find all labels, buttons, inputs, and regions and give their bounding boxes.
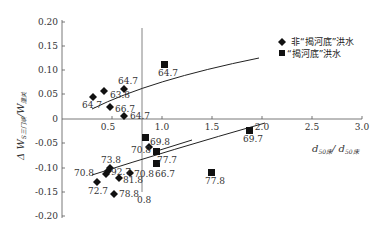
svg-text:69.8: 69.8 [150, 137, 170, 147]
svg-text:0.20: 0.20 [38, 17, 58, 27]
svg-text:64.7: 64.7 [118, 76, 138, 86]
svg-text:1.0: 1.0 [155, 122, 170, 132]
x-tick-labels: 0.5 1.0 1.5 2.0 2.5 3.0 [101, 122, 370, 132]
svg-text:77.8: 77.8 [205, 176, 225, 186]
svg-text:-0.15: -0.15 [35, 187, 58, 197]
square-marker [246, 127, 253, 134]
diamond-marker [110, 190, 118, 198]
y-axis-title: Δ WS三门峡/W潼关 [15, 91, 27, 161]
svg-text:64.7: 64.7 [158, 68, 178, 78]
square-marker [142, 134, 149, 141]
svg-text:63.8: 63.8 [110, 90, 130, 100]
svg-text:77.7: 77.7 [157, 155, 177, 165]
svg-text:70.8: 70.8 [74, 168, 94, 178]
diamond-marker [93, 178, 101, 186]
legend: 非“揭河底”洪水 “揭河底”洪水 [278, 36, 354, 59]
svg-text:70.8: 70.8 [131, 145, 151, 155]
y-tick-labels: 0.20 0.15 0.10 0.05 0 -0.05 -0.10 -0.15 … [35, 17, 58, 221]
svg-text:72.7: 72.7 [88, 186, 108, 196]
x-axis-title: d50床/ d50床 [312, 143, 360, 155]
legend-item-non-jiehedi: 非“揭河底”洪水 [291, 36, 354, 47]
svg-text:-0.20: -0.20 [35, 211, 58, 221]
svg-text:-0.05: -0.05 [35, 138, 58, 148]
svg-text:70.8: 70.8 [134, 169, 154, 179]
x-axis [62, 116, 362, 119]
svg-text:69.7: 69.7 [243, 134, 263, 144]
square-marker [153, 148, 160, 155]
svg-text:0: 0 [52, 114, 58, 124]
reference-line-label: 0.8 [137, 195, 152, 205]
square-marker [161, 61, 168, 68]
diamond-marker [100, 87, 108, 95]
svg-text:0.10: 0.10 [38, 65, 58, 75]
svg-text:66.7: 66.7 [155, 169, 175, 179]
svg-text:2.5: 2.5 [305, 122, 320, 132]
square-marker [208, 169, 215, 176]
svg-text:64.7: 64.7 [130, 111, 150, 121]
svg-text:-0.10: -0.10 [35, 163, 58, 173]
legend-diamond-icon [278, 38, 286, 46]
legend-square-icon [279, 50, 285, 56]
point-labels: 64.7 63.8 64.7 66.7 64.7 70.8 73.8 70.8 … [74, 68, 263, 205]
svg-text:0.15: 0.15 [38, 41, 58, 51]
svg-text:73.8: 73.8 [101, 155, 121, 165]
svg-text:64.7: 64.7 [82, 100, 102, 110]
svg-text:0.5: 0.5 [101, 122, 116, 132]
diamond-marker [106, 103, 114, 111]
scatter-chart: 0.20 0.15 0.10 0.05 0 -0.05 -0.10 -0.15 … [0, 0, 383, 237]
legend-item-jiehedi: “揭河底”洪水 [287, 48, 341, 59]
svg-text:0.05: 0.05 [38, 89, 58, 99]
svg-text:3.0: 3.0 [355, 122, 370, 132]
svg-text:1.5: 1.5 [205, 122, 220, 132]
